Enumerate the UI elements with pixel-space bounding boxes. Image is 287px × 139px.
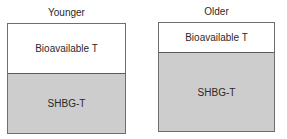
- older-title: Older: [158, 6, 275, 17]
- older-box: Bioavailable T SHBG-T: [158, 22, 275, 132]
- younger-shbg-segment: SHBG-T: [8, 74, 125, 133]
- older-shbg-label: SHBG-T: [198, 87, 236, 98]
- older-bioavailable-label: Bioavailable T: [185, 32, 248, 43]
- younger-bioavailable-label: Bioavailable T: [35, 43, 98, 54]
- older-shbg-segment: SHBG-T: [159, 53, 274, 131]
- younger-bioavailable-segment: Bioavailable T: [8, 24, 125, 74]
- younger-shbg-label: SHBG-T: [48, 98, 86, 109]
- older-bioavailable-segment: Bioavailable T: [159, 23, 274, 53]
- younger-box: Bioavailable T SHBG-T: [7, 23, 126, 134]
- younger-title: Younger: [7, 7, 126, 18]
